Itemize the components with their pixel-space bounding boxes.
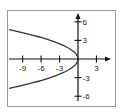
- parabola-chart: -9-6-3363-3-6: [0, 0, 120, 112]
- y-tick-label: 3: [83, 36, 88, 45]
- y-tick-label: 6: [83, 18, 88, 27]
- y-tick-label: -6: [83, 92, 91, 101]
- y-tick-label: -3: [83, 74, 91, 83]
- x-tick-label: -3: [56, 64, 64, 73]
- x-tick-label: 3: [94, 64, 99, 73]
- x-tick-label: -9: [19, 64, 27, 73]
- x-tick-label: -6: [38, 64, 46, 73]
